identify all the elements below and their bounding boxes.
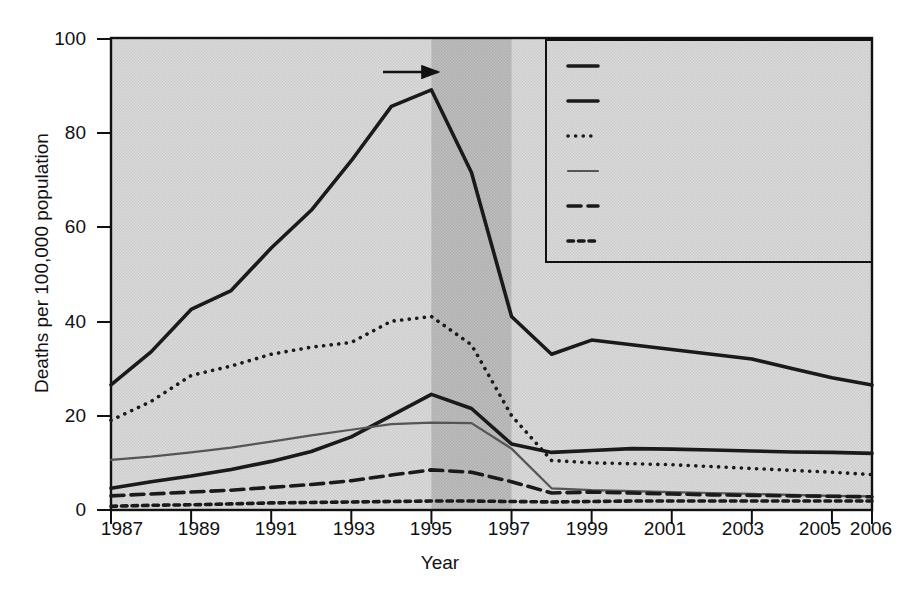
y-axis-ticks bbox=[97, 39, 111, 510]
chart-figure: Deaths per 100,000 population Year 100 8… bbox=[0, 0, 909, 590]
x-axis-ticks bbox=[111, 510, 872, 524]
plot-area bbox=[0, 0, 909, 590]
